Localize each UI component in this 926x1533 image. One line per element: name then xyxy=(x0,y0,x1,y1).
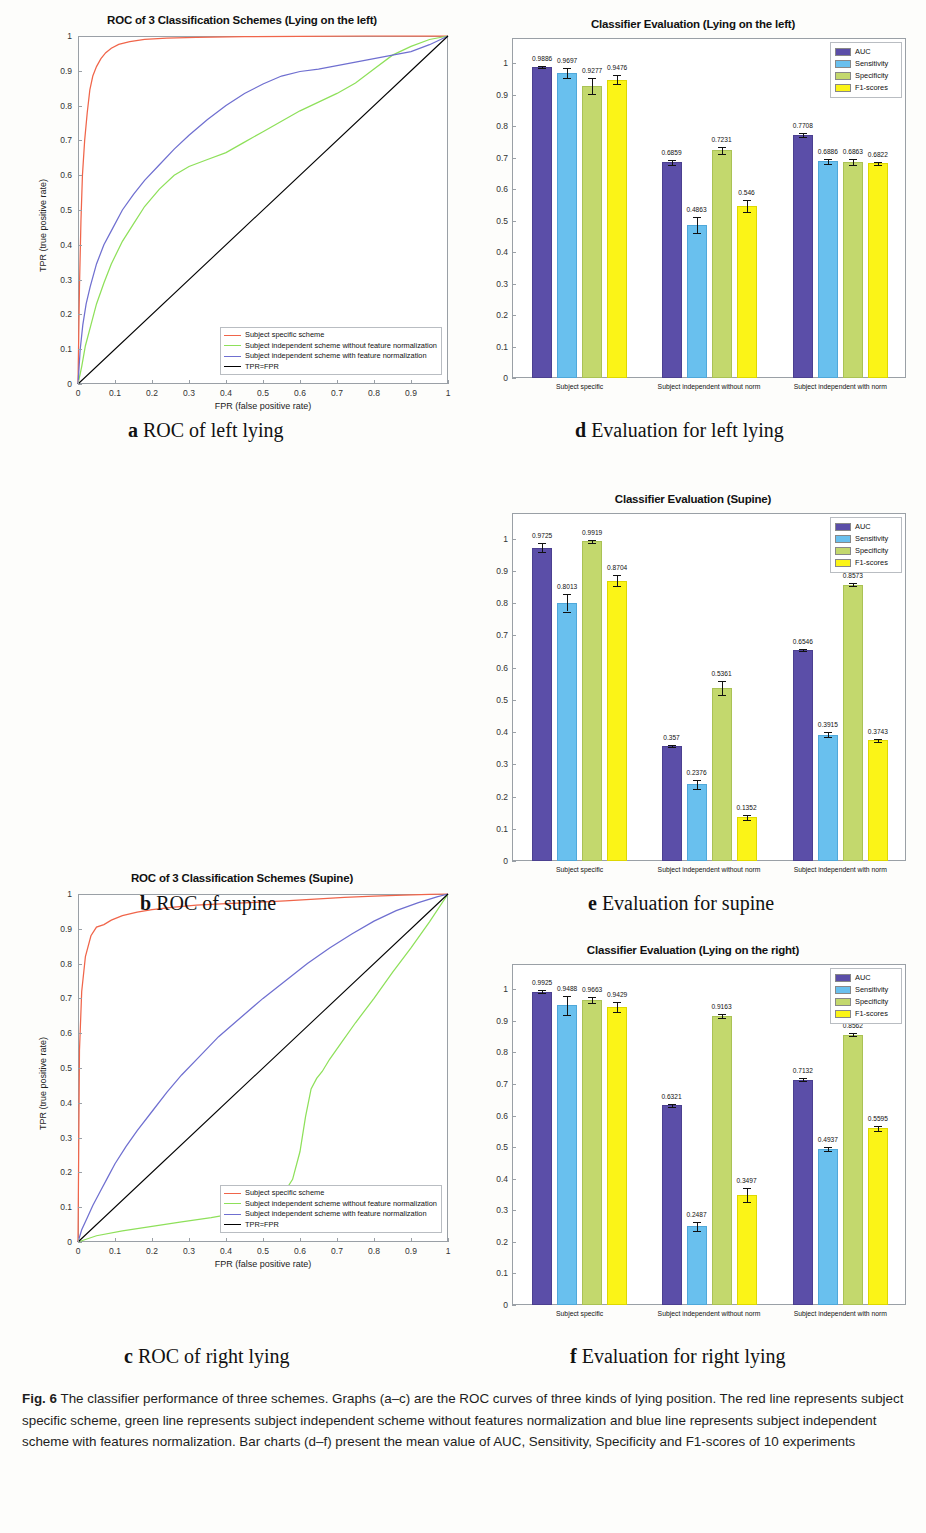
legend-item[interactable]: Subject independent scheme without featu… xyxy=(224,1199,438,1210)
y-tick-mark xyxy=(512,635,516,636)
error-bar-cap xyxy=(668,747,676,748)
legend-item[interactable]: Specificity xyxy=(835,70,897,82)
error-bar-cap xyxy=(588,540,596,541)
bar-auc[interactable] xyxy=(793,650,813,861)
legend-item[interactable]: Subject specific scheme xyxy=(224,330,438,341)
y-tick-mark xyxy=(78,245,82,246)
bar-f1-scores[interactable] xyxy=(868,740,888,861)
legend-item[interactable]: Subject independent scheme with feature … xyxy=(224,1209,438,1220)
bar-f1-scores[interactable] xyxy=(737,206,757,378)
legend-item[interactable]: AUC xyxy=(835,46,897,58)
legend-item[interactable]: Specificity xyxy=(835,996,897,1008)
legend-item[interactable]: TPR=FPR xyxy=(224,1220,438,1231)
y-tick-label: 1 xyxy=(46,31,72,41)
bar-value-label: 0.9429 xyxy=(607,991,627,998)
error-bar-cap xyxy=(693,1222,701,1223)
y-tick-mark xyxy=(512,158,516,159)
error-bar-cap xyxy=(824,159,832,160)
bar-specificity[interactable] xyxy=(582,1000,602,1305)
bar-f1-scores[interactable] xyxy=(737,817,757,861)
bar-specificity[interactable] xyxy=(712,150,732,378)
error-bar-cap xyxy=(718,1014,726,1015)
bar-f1-scores[interactable] xyxy=(607,80,627,378)
error-bar-cap xyxy=(743,1188,751,1189)
bar-f1-scores[interactable] xyxy=(607,1007,627,1305)
bar-sensitivity[interactable] xyxy=(818,161,838,378)
y-tick-mark xyxy=(512,539,516,540)
x-tick-mark xyxy=(300,1238,301,1242)
bar-sensitivity[interactable] xyxy=(557,603,577,861)
legend-item[interactable]: AUC xyxy=(835,521,897,533)
y-tick-mark xyxy=(512,1116,516,1117)
subcaption-e-text: Evaluation for supine xyxy=(597,892,774,914)
bar-sensitivity[interactable] xyxy=(687,784,707,861)
x-tick-mark xyxy=(337,1238,338,1242)
bar-sensitivity[interactable] xyxy=(687,225,707,378)
bar-f1-scores[interactable] xyxy=(868,163,888,378)
bar-auc[interactable] xyxy=(662,162,682,378)
bar-value-label: 0.8013 xyxy=(557,583,577,590)
legend-item-label: Subject independent scheme without featu… xyxy=(245,1199,437,1210)
y-tick-label: 0.2 xyxy=(46,309,72,319)
legend-item[interactable]: Sensitivity xyxy=(835,533,897,545)
error-bar-cap xyxy=(588,78,596,79)
bar-value-label: 0.2487 xyxy=(686,1211,706,1218)
bar-sensitivity[interactable] xyxy=(557,73,577,378)
bar-specificity[interactable] xyxy=(582,86,602,378)
error-bar-cap xyxy=(799,649,807,650)
x-tick-mark xyxy=(115,1238,116,1242)
legend-item[interactable]: F1-scores xyxy=(835,557,897,569)
bar-f1-scores[interactable] xyxy=(737,1195,757,1305)
bar-auc[interactable] xyxy=(532,548,552,861)
legend-item[interactable]: Subject independent scheme with feature … xyxy=(224,351,438,362)
bar-auc[interactable] xyxy=(662,746,682,861)
bar-sensitivity[interactable] xyxy=(557,1005,577,1305)
bar-auc[interactable] xyxy=(793,1080,813,1305)
bar-f1-scores[interactable] xyxy=(868,1128,888,1305)
error-bar-cap xyxy=(824,732,832,733)
legend-item[interactable]: Subject specific scheme xyxy=(224,1188,438,1199)
legend-item[interactable]: Sensitivity xyxy=(835,58,897,70)
subcaption-d-letter: d xyxy=(575,419,586,441)
error-bar-cap xyxy=(799,1078,807,1079)
x-tick-label: 0.7 xyxy=(325,388,349,398)
chart-title-f: Classifier Evaluation (Lying on the righ… xyxy=(470,944,916,956)
bar-specificity[interactable] xyxy=(582,541,602,861)
bar-specificity[interactable] xyxy=(712,688,732,861)
y-tick-mark xyxy=(512,989,516,990)
bar-auc[interactable] xyxy=(793,135,813,378)
error-bar-cap xyxy=(849,1036,857,1037)
bar-auc[interactable] xyxy=(532,992,552,1305)
legend-item[interactable]: AUC xyxy=(835,972,897,984)
subcaption-d: d Evaluation for left lying xyxy=(575,419,784,442)
bar-value-label: 0.7132 xyxy=(793,1067,813,1074)
y-tick-label: 0.4 xyxy=(482,1174,508,1184)
x-tick-label: 1 xyxy=(436,1246,460,1256)
legend-item[interactable]: Subject independent scheme without featu… xyxy=(224,341,438,352)
bar-f1-scores[interactable] xyxy=(607,581,627,861)
bar-value-label: 0.9697 xyxy=(557,57,577,64)
error-bar-cap xyxy=(743,820,751,821)
bar-auc[interactable] xyxy=(662,1105,682,1305)
bar-sensitivity[interactable] xyxy=(818,1149,838,1305)
legend-item[interactable]: Sensitivity xyxy=(835,984,897,996)
x-tick-mark xyxy=(374,380,375,384)
legend-item-label: F1-scores xyxy=(855,82,888,94)
bar-specificity[interactable] xyxy=(843,162,863,378)
legend-item[interactable]: F1-scores xyxy=(835,82,897,94)
bar-specificity[interactable] xyxy=(712,1016,732,1305)
legend-item[interactable]: TPR=FPR xyxy=(224,362,438,373)
bar-value-label: 0.9725 xyxy=(532,532,552,539)
bar-auc[interactable] xyxy=(532,67,552,378)
legend-item-label: Subject independent scheme with feature … xyxy=(245,1209,427,1220)
bar-specificity[interactable] xyxy=(843,1035,863,1305)
bar-sensitivity[interactable] xyxy=(687,1226,707,1305)
bar-specificity[interactable] xyxy=(843,585,863,861)
legend-item[interactable]: Specificity xyxy=(835,545,897,557)
bar-value-label: 0.9886 xyxy=(532,55,552,62)
y-tick-mark xyxy=(78,894,82,895)
y-tick-mark xyxy=(512,95,516,96)
legend-line-swatch xyxy=(224,1203,241,1204)
bar-sensitivity[interactable] xyxy=(818,735,838,861)
legend-item[interactable]: F1-scores xyxy=(835,1008,897,1020)
